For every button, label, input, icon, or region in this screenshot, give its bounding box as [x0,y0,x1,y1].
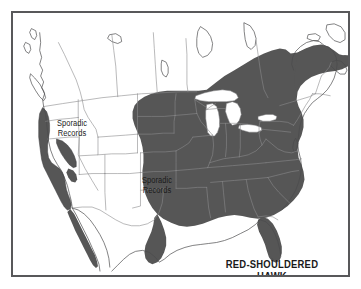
map-frame: Sporadic Records Sporadic Records RED-SH… [11,11,350,277]
range-map-figure: Sporadic Records Sporadic Records RED-SH… [0,0,361,289]
map-canvas [13,13,348,275]
